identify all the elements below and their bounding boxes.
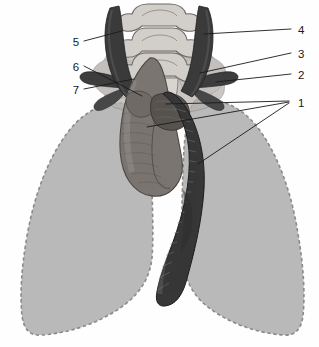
label-3: 3 <box>298 48 304 60</box>
label-7: 7 <box>73 84 79 96</box>
label-5: 5 <box>73 36 79 48</box>
thorax-vasculature-illustration: 1 2 3 4 5 6 7 <box>0 0 319 347</box>
label-6: 6 <box>73 61 79 73</box>
label-1: 1 <box>298 97 304 109</box>
label-2: 2 <box>298 69 304 81</box>
anatomical-figure: 1 2 3 4 5 6 7 <box>0 0 319 347</box>
label-4: 4 <box>298 24 305 36</box>
